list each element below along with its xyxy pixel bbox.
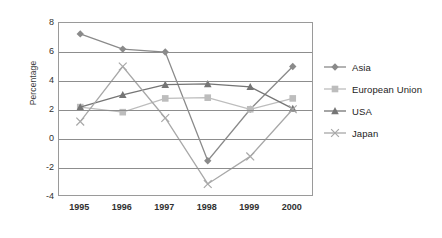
- legend-square-icon: [322, 82, 348, 96]
- y-axis-tick-label: 6: [32, 46, 54, 56]
- data-point-square-icon: [204, 94, 211, 101]
- y-axis-tick-label: 0: [32, 133, 54, 143]
- data-point-cross-icon: [246, 153, 254, 161]
- x-axis-tick-label: 1995: [69, 202, 89, 212]
- gridline: [59, 168, 312, 169]
- legend-label: USA: [352, 106, 372, 117]
- data-point-diamond-icon: [77, 30, 84, 37]
- data-point-cross-icon: [204, 180, 212, 188]
- y-axis-tick-label: -4: [32, 191, 54, 201]
- plot-area: [58, 22, 313, 196]
- x-axis-tick-label: 1998: [197, 202, 217, 212]
- line-chart: Percentage 86420-2-4 1995199619971998199…: [0, 0, 442, 238]
- gridline: [59, 81, 312, 82]
- x-axis-ticks: 199519961997199819992000: [0, 202, 442, 218]
- legend-label: Japan: [352, 128, 378, 139]
- legend-label: European Union: [352, 84, 422, 95]
- x-axis-tick-label: 1997: [154, 202, 174, 212]
- legend-triangle-icon: [322, 104, 348, 118]
- legend: AsiaEuropean UnionUSAJapan: [322, 56, 440, 144]
- data-point-square-icon: [162, 95, 169, 102]
- legend-diamond-icon: [322, 60, 348, 74]
- series-asia: [77, 30, 297, 164]
- y-axis-tick-label: -2: [32, 162, 54, 172]
- data-point-cross-icon: [119, 63, 127, 71]
- y-axis-tick-label: 2: [32, 104, 54, 114]
- data-point-square-icon: [289, 95, 296, 102]
- legend-label: Asia: [352, 62, 371, 73]
- legend-cross-icon: [322, 126, 348, 140]
- legend-item-usa[interactable]: USA: [322, 100, 440, 122]
- x-axis-tick-label: 1996: [112, 202, 132, 212]
- gridline: [59, 52, 312, 53]
- x-axis-tick-label: 2000: [282, 202, 302, 212]
- legend-item-european-union[interactable]: European Union: [322, 78, 440, 100]
- gridline: [59, 110, 312, 111]
- legend-item-asia[interactable]: Asia: [322, 56, 440, 78]
- data-point-cross-icon: [76, 118, 84, 126]
- y-axis-tick-label: 4: [32, 75, 54, 85]
- x-axis-tick-label: 1999: [239, 202, 259, 212]
- legend-item-japan[interactable]: Japan: [322, 122, 440, 144]
- gridline: [59, 139, 312, 140]
- y-axis-tick-label: 8: [32, 17, 54, 27]
- data-point-cross-icon: [161, 114, 169, 122]
